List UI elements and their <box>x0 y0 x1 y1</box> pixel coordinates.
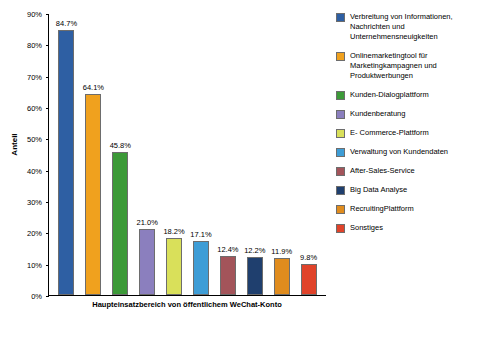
bar-slot: 21.0% <box>134 14 161 295</box>
bar <box>58 30 74 295</box>
legend-item-label: Onlinemarketingtool für Marketingkampagn… <box>350 51 486 81</box>
y-axis-tick-label: 70% <box>27 72 42 81</box>
legend-item: Sonstiges <box>336 223 486 233</box>
legend-item: Kundenberatung <box>336 109 486 119</box>
bar-slot: 17.1% <box>188 14 215 295</box>
bar-slot: 12.4% <box>214 14 241 295</box>
legend-swatch-icon <box>336 205 345 214</box>
plot-area: 84.7%64.1%45.8%21.0%18.2%17.1%12.4%12.2%… <box>48 14 326 296</box>
bar-slot: 12.2% <box>241 14 268 295</box>
bar-value-label: 12.2% <box>244 246 265 255</box>
y-axis-tick-label: 30% <box>27 198 42 207</box>
bar-value-label: 18.2% <box>163 227 184 236</box>
bar-value-label: 17.1% <box>190 230 211 239</box>
bar-slot: 11.9% <box>268 14 295 295</box>
legend-item: After-Sales-Service <box>336 166 486 176</box>
y-axis-tick-label: 20% <box>27 229 42 238</box>
legend-item-label: Verwaltung von Kundendaten <box>350 147 448 157</box>
bar <box>139 229 155 295</box>
legend-swatch-icon <box>336 52 345 61</box>
bar-value-label: 21.0% <box>137 218 158 227</box>
y-axis-tick-label: 40% <box>27 166 42 175</box>
bar-value-label: 12.4% <box>217 245 238 254</box>
legend-item-label: Verbreitung von Informationen, Nachricht… <box>350 12 486 42</box>
legend-item-label: RecruitingPlattform <box>350 204 414 214</box>
x-axis-title: Haupteinsatzbereich von öffentlichem WeC… <box>48 300 326 309</box>
legend-item-label: Kunden-Dialogplattform <box>350 90 429 100</box>
bar-value-label: 64.1% <box>83 83 104 92</box>
legend-item-label: Big Data Analyse <box>350 185 407 195</box>
y-axis-tick-mark <box>46 296 49 297</box>
bar <box>193 241 209 295</box>
bar-value-label: 9.8% <box>300 253 317 262</box>
bar-slot: 18.2% <box>161 14 188 295</box>
y-axis-tick-label: 10% <box>27 260 42 269</box>
legend-item: Big Data Analyse <box>336 185 486 195</box>
legend-item: E- Commerce-Plattform <box>336 128 486 138</box>
legend-item-label: Kundenberatung <box>350 109 405 119</box>
y-axis-tick-label: 80% <box>27 41 42 50</box>
legend-item-label: Sonstiges <box>350 223 383 233</box>
legend-item: Verbreitung von Informationen, Nachricht… <box>336 12 486 42</box>
legend-item: Onlinemarketingtool für Marketingkampagn… <box>336 51 486 81</box>
bar <box>85 94 101 295</box>
legend-item: Verwaltung von Kundendaten <box>336 147 486 157</box>
bar <box>112 152 128 296</box>
legend-swatch-icon <box>336 148 345 157</box>
y-axis-tick-label: 60% <box>27 104 42 113</box>
bar-slot: 84.7% <box>53 14 80 295</box>
legend-swatch-icon <box>336 167 345 176</box>
legend-swatch-icon <box>336 186 345 195</box>
chart-legend: Verbreitung von Informationen, Nachricht… <box>336 12 486 242</box>
legend-item: Kunden-Dialogplattform <box>336 90 486 100</box>
legend-swatch-icon <box>336 13 345 22</box>
legend-item: RecruitingPlattform <box>336 204 486 214</box>
bar <box>274 258 290 295</box>
bar-slot: 45.8% <box>107 14 134 295</box>
bar-slot: 9.8% <box>295 14 322 295</box>
bar-slot: 64.1% <box>80 14 107 295</box>
bar-value-label: 11.9% <box>271 247 292 256</box>
bar <box>166 238 182 295</box>
bar <box>220 256 236 295</box>
legend-item-label: After-Sales-Service <box>350 166 415 176</box>
legend-swatch-icon <box>336 129 345 138</box>
legend-item-label: E- Commerce-Plattform <box>350 128 429 138</box>
legend-swatch-icon <box>336 91 345 100</box>
y-axis: 0%10%20%30%40%50%60%70%80%90% <box>0 14 46 296</box>
bar <box>247 257 263 295</box>
bar-series: 84.7%64.1%45.8%21.0%18.2%17.1%12.4%12.2%… <box>49 14 326 295</box>
y-axis-tick-label: 50% <box>27 135 42 144</box>
bar-chart: Anteil 0%10%20%30%40%50%60%70%80%90% 84.… <box>0 0 490 338</box>
bar-value-label: 45.8% <box>110 141 131 150</box>
bar-value-label: 84.7% <box>56 19 77 28</box>
y-axis-tick-label: 0% <box>31 292 42 301</box>
bar <box>301 264 317 295</box>
legend-swatch-icon <box>336 224 345 233</box>
y-axis-tick-label: 90% <box>27 10 42 19</box>
legend-swatch-icon <box>336 110 345 119</box>
